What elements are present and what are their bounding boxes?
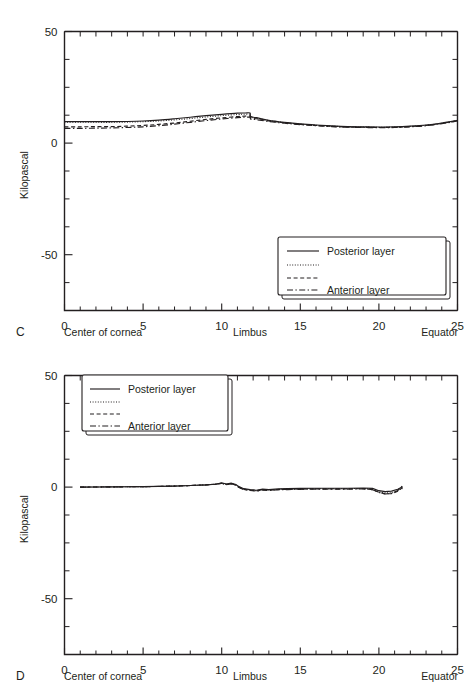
legend-label-posterior: Posterior layer xyxy=(128,383,196,395)
y-tick-label: 50 xyxy=(45,370,58,382)
y-tick-label: -50 xyxy=(41,593,58,605)
x-tick-label: 10 xyxy=(215,664,228,676)
panel-c-letter: C xyxy=(16,325,25,339)
legend-label-anterior: Anterior layer xyxy=(327,284,390,296)
legend-label-posterior: Posterior layer xyxy=(327,245,395,257)
panel-c-ylabel: Kilopascal xyxy=(18,151,30,199)
panel-d-ylabel: Kilopascal xyxy=(18,495,30,543)
panel-c: 0510152025-50050 Posterior layer Anterio… xyxy=(0,0,476,344)
panel-d: 0510152025-50050 Posterior layer Anterio… xyxy=(0,344,476,688)
x-tick-label: 20 xyxy=(373,664,386,676)
panel-d-series xyxy=(80,483,402,494)
x-tick-label: 15 xyxy=(294,664,307,676)
panel-c-legend: Posterior layer Anterior layer xyxy=(278,237,450,299)
panel-c-plot: 0510152025-50050 Posterior layer Anterio… xyxy=(0,0,476,344)
y-tick-label: -50 xyxy=(41,249,58,261)
legend-label-anterior: Anterior layer xyxy=(128,420,191,432)
panel-d-xname-middle: Limbus xyxy=(233,670,267,682)
panel-d-xname-right: Equator xyxy=(421,670,458,682)
x-tick-label: 10 xyxy=(215,320,228,332)
panel-d-legend: Posterior layer Anterior layer xyxy=(82,375,232,435)
panel-c-xname-middle: Limbus xyxy=(233,326,267,338)
y-tick-label: 0 xyxy=(51,137,57,149)
y-tick-label: 0 xyxy=(51,481,57,493)
panel-d-plot: 0510152025-50050 Posterior layer Anterio… xyxy=(0,344,476,688)
panel-d-xname-left: Center of cornea xyxy=(64,670,142,682)
x-tick-label: 20 xyxy=(373,320,386,332)
y-tick-label: 50 xyxy=(45,26,58,38)
panel-c-series xyxy=(65,113,458,129)
figure-container: 0510152025-50050 Posterior layer Anterio… xyxy=(0,0,476,688)
panel-c-xname-left: Center of cornea xyxy=(64,326,142,338)
x-tick-label: 15 xyxy=(294,320,307,332)
panel-c-xname-right: Equator xyxy=(421,326,458,338)
panel-d-letter: D xyxy=(16,669,25,683)
